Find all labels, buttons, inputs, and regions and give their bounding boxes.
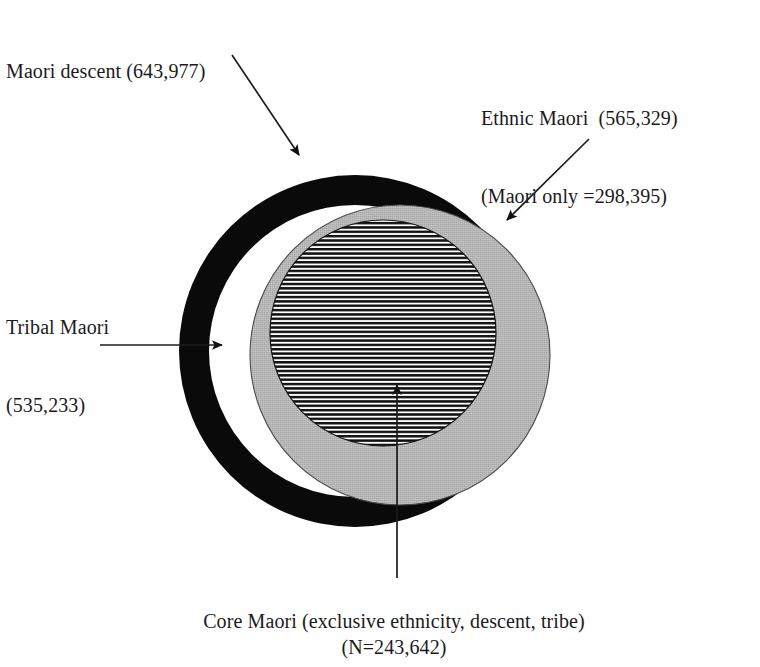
- label-tribal-maori: Tribal Maori (535,233): [6, 262, 109, 470]
- label-core-maori: Core Maori (exclusive ethnicity, descent…: [0, 608, 760, 660]
- figure-canvas: Maori descent (643,977) Ethnic Maori (56…: [0, 0, 760, 667]
- label-core-maori-line1: Core Maori (exclusive ethnicity, descent…: [28, 608, 760, 634]
- set-core-maori-circle: [270, 220, 496, 446]
- label-maori-descent-text: Maori descent (643,977): [6, 58, 205, 84]
- label-tribal-maori-line2: (535,233): [6, 392, 109, 418]
- label-ethnic-maori: Ethnic Maori (565,329) (Maori only =298,…: [481, 53, 678, 261]
- label-tribal-maori-line1: Tribal Maori: [6, 314, 109, 340]
- label-core-maori-line2: (N=243,642): [28, 634, 760, 660]
- label-ethnic-maori-line1: Ethnic Maori (565,329): [481, 105, 678, 131]
- label-ethnic-maori-line2: (Maori only =298,395): [481, 183, 678, 209]
- label-maori-descent: Maori descent (643,977): [6, 6, 205, 136]
